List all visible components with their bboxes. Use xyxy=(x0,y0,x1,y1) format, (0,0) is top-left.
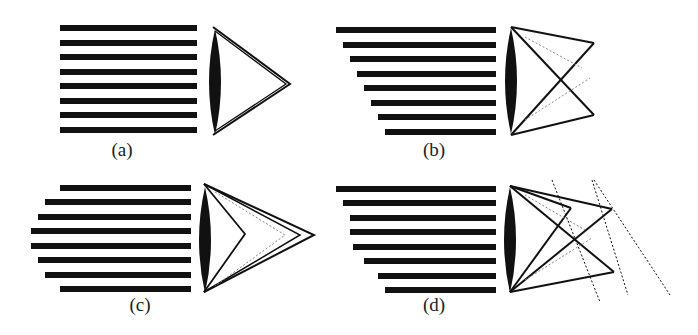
rays xyxy=(510,186,614,292)
ray xyxy=(215,31,286,131)
lens-icon xyxy=(504,187,516,293)
panel-label: (d) xyxy=(423,294,445,316)
lens-icon xyxy=(209,29,221,135)
bars xyxy=(336,186,496,293)
panel-c: (c) xyxy=(31,184,314,316)
lens-icon xyxy=(199,187,211,293)
focal-planes xyxy=(552,180,670,302)
panel-b: (b) xyxy=(336,27,594,161)
diagram: (a) (b) xyxy=(0,0,698,335)
lens-icon xyxy=(505,28,517,134)
rays xyxy=(204,184,314,292)
panel-d: (d) xyxy=(336,180,670,316)
panel-label: (c) xyxy=(129,294,150,316)
bars xyxy=(31,185,191,292)
panel-label: (a) xyxy=(111,139,132,161)
bars xyxy=(336,27,496,135)
bars xyxy=(60,25,197,133)
ray xyxy=(213,27,290,135)
panel-a: (a) xyxy=(60,25,290,161)
rays xyxy=(511,27,594,135)
panel-label: (b) xyxy=(423,139,445,161)
